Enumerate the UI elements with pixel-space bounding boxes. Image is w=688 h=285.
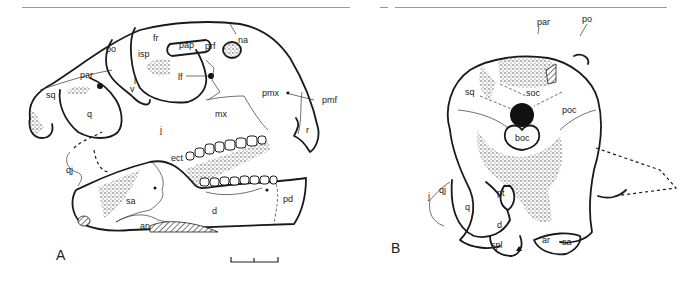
label-prf: prf — [205, 41, 216, 51]
label-sq: sq — [46, 90, 56, 100]
pmf-dot — [287, 92, 290, 95]
label-poc-b: poc — [562, 105, 577, 115]
label-q-b: q — [465, 202, 470, 212]
label-lf: lf — [178, 72, 183, 82]
pd-suture — [274, 184, 278, 224]
right-side-b — [598, 190, 626, 198]
scale-bar — [231, 257, 278, 262]
label-pmx: pmx — [262, 88, 280, 98]
label-sa-b: sa — [562, 237, 572, 247]
label-soc-b: soc — [526, 88, 541, 98]
dashed-jugal-flange — [596, 148, 676, 196]
articular-b — [534, 233, 580, 254]
label-po-b: po — [582, 14, 592, 24]
suture-prf — [206, 60, 220, 100]
label-d: d — [212, 206, 217, 216]
label-pap: pap — [179, 40, 194, 50]
panel-label-b: B — [391, 240, 400, 256]
left-side-b — [450, 130, 500, 248]
panel-label-a: A — [56, 247, 66, 263]
label-qj-b: qj — [439, 185, 446, 195]
suture-r — [298, 92, 302, 134]
label-sq-b: sq — [465, 87, 475, 97]
label-na: na — [238, 35, 248, 45]
label-ar-b: ar — [542, 235, 550, 245]
label-q: q — [87, 109, 92, 119]
sa-foramen — [154, 187, 157, 190]
quadrate-outline — [60, 78, 122, 138]
label-d-b: d — [497, 220, 502, 230]
d-groove — [206, 188, 262, 195]
panel-a-lateral-skull: po sq par isp fr pap prf na lf l v pmx p… — [29, 22, 338, 263]
label-mx: mx — [215, 109, 227, 119]
label-boc-b: boc — [515, 133, 530, 143]
par-foramen — [97, 83, 103, 89]
label-ect: ect — [171, 153, 184, 163]
label-fr: fr — [153, 33, 159, 43]
label-sa: sa — [126, 196, 136, 206]
jaw-dashed-1 — [74, 132, 102, 148]
stipple-par — [66, 86, 90, 95]
pmf-leader — [286, 93, 314, 100]
label-spl-b: spl — [491, 240, 503, 250]
label-r: r — [306, 125, 309, 135]
label-pd: pd — [283, 194, 293, 204]
label-an: an — [140, 221, 150, 231]
stipple-sq-b — [479, 66, 496, 100]
skull-figure: po sq par isp fr pap prf na lf l v pmx p… — [0, 0, 688, 285]
label-pmf: pmf — [322, 95, 338, 105]
label-v: v — [130, 84, 135, 94]
label-po: po — [106, 44, 116, 54]
label-j-b: j — [427, 191, 430, 201]
d-foramen — [266, 189, 269, 192]
cranium-outline — [30, 22, 319, 152]
label-j: j — [159, 125, 162, 135]
label-isp: isp — [138, 49, 150, 59]
label-pt-b: pt — [497, 188, 505, 198]
jaw-dashed-2 — [94, 150, 108, 172]
label-qj: qj — [66, 165, 73, 175]
label-par: par — [80, 70, 93, 80]
articular-hatch — [78, 216, 90, 226]
label-par-b: par — [537, 17, 550, 27]
panel-b-posterior-skull: par po sq soc poc boc j qj q pt d spl ar… — [391, 14, 676, 256]
suture-na — [230, 24, 236, 34]
po-bump — [574, 55, 588, 64]
stipple-isp — [146, 59, 170, 75]
foramen-magnum — [510, 103, 534, 127]
